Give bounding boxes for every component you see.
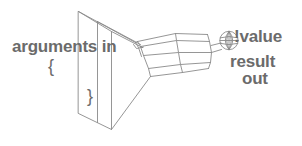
function-barrel [134,34,212,77]
label-brace-open: { [48,57,54,75]
result-neck [211,43,222,53]
label-out: out [242,70,268,87]
label-brace-close: } [87,87,93,105]
funnel-mouth [79,12,112,130]
label-result: result [230,53,275,70]
label-arguments-in: arguments in [12,38,116,55]
label-bang-value: !value [234,28,282,45]
funnel-taper [79,12,151,130]
diagram-canvas: arguments in { } !value result out [0,0,302,146]
